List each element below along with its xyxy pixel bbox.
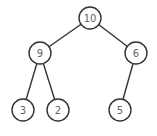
node-label: 3	[20, 105, 26, 116]
node-label: 9	[37, 48, 43, 59]
tree-node-6: 6	[125, 42, 147, 64]
node-label: 2	[55, 105, 61, 116]
tree-node-9: 9	[29, 42, 51, 64]
tree-node-5: 5	[109, 99, 131, 121]
node-label: 5	[117, 105, 123, 116]
node-label: 10	[84, 13, 97, 24]
tree-node-10: 10	[79, 7, 101, 29]
node-label: 6	[133, 48, 139, 59]
tree-diagram: 10 9 6 3 2 5	[0, 0, 157, 136]
tree-node-3: 3	[12, 99, 34, 121]
tree-node-2: 2	[47, 99, 69, 121]
